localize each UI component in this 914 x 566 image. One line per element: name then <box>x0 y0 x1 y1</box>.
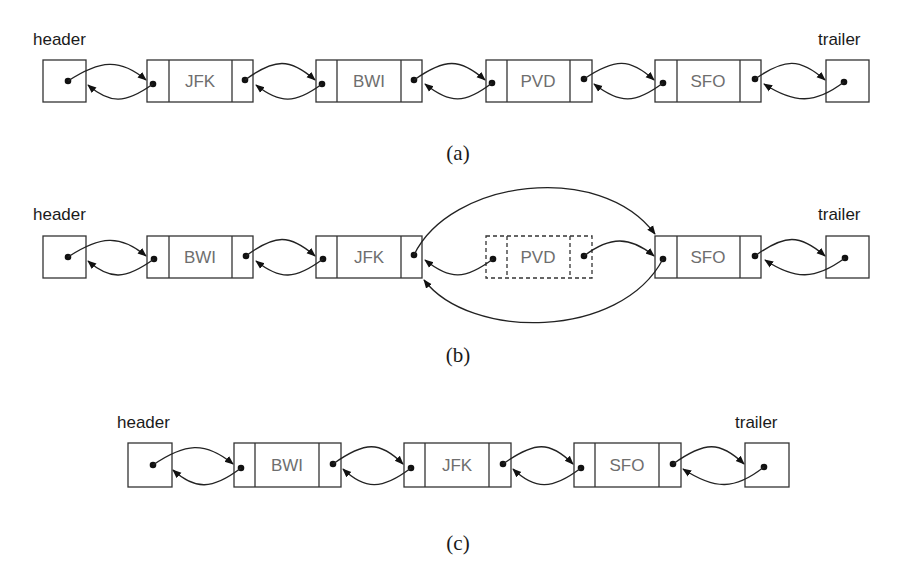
node-bwi: BWI <box>147 236 253 278</box>
node-sfo: SFO <box>574 443 681 487</box>
node-pvd-removed: PVD <box>486 236 592 278</box>
node-sfo: SFO <box>655 236 761 278</box>
trailer-sentinel-node <box>826 236 869 278</box>
panel-c: header trailer BWI JFK <box>117 413 789 555</box>
node-element: JFK <box>354 248 385 267</box>
doubly-linked-list-diagram: header trailer JFK BWI <box>0 0 914 566</box>
trailer-label: trailer <box>818 205 861 224</box>
node-element: JFK <box>442 456 473 475</box>
caption-a: (a) <box>446 141 469 165</box>
node-element: JFK <box>185 72 216 91</box>
node-jfk: JFK <box>404 443 511 487</box>
trailer-label: trailer <box>818 30 861 49</box>
trailer-sentinel-node <box>826 60 869 102</box>
node-element: SFO <box>691 248 726 267</box>
trailer-sentinel-node <box>745 443 789 487</box>
node-element: BWI <box>271 456 303 475</box>
panel-a: header trailer JFK BWI <box>33 30 869 165</box>
header-label: header <box>117 413 170 432</box>
header-label: header <box>33 205 86 224</box>
node-jfk: JFK <box>316 236 422 278</box>
header-sentinel-node <box>128 443 172 487</box>
node-element: BWI <box>184 248 216 267</box>
caption-c: (c) <box>446 531 469 555</box>
node-element: SFO <box>691 72 726 91</box>
header-label: header <box>33 30 86 49</box>
node-bwi: BWI <box>316 60 422 102</box>
node-element: BWI <box>353 72 385 91</box>
header-sentinel-node <box>43 60 86 102</box>
node-element: PVD <box>521 248 556 267</box>
node-bwi: BWI <box>234 443 341 487</box>
node-sfo: SFO <box>655 60 761 102</box>
node-pvd: PVD <box>486 60 592 102</box>
panel-b: header trailer BWI JFK <box>33 188 869 367</box>
header-sentinel-node <box>43 236 86 278</box>
node-element: PVD <box>521 72 556 91</box>
node-element: SFO <box>610 456 645 475</box>
node-jfk: JFK <box>147 60 253 102</box>
caption-b: (b) <box>446 343 471 367</box>
trailer-label: trailer <box>735 413 778 432</box>
